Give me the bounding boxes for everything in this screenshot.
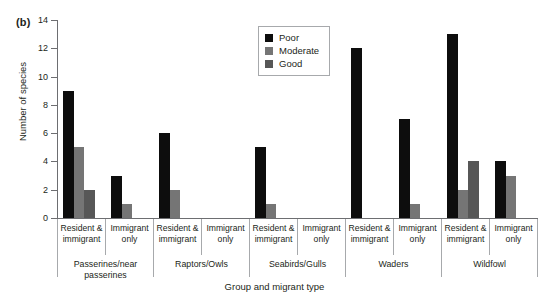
- bar-poor: [63, 91, 74, 218]
- x-category-line: Resident &immigrant: [252, 223, 294, 244]
- y-tick-label: 2: [28, 185, 48, 195]
- figure-panel-b: (b) Number of species Group and migrant …: [0, 0, 549, 301]
- x-axis-category-labels: Resident &immigrantImmigrantonlyResident…: [57, 219, 538, 255]
- legend-item-good[interactable]: Good: [265, 58, 319, 70]
- y-tick-label: 12: [28, 43, 48, 53]
- legend-label: Moderate: [279, 46, 319, 56]
- y-tick-mark: [51, 105, 57, 106]
- x-category-line: Immigrantonly: [494, 223, 532, 244]
- y-tick-mark: [51, 48, 57, 49]
- x-category-label: Resident &immigrant: [153, 219, 201, 255]
- legend-item-poor[interactable]: Poor: [265, 32, 319, 44]
- bar-moderate: [122, 204, 133, 218]
- y-tick-label: 0: [28, 213, 48, 223]
- bar-group: [202, 20, 250, 218]
- group-frame-end: [537, 255, 538, 277]
- bar-group: [58, 20, 106, 218]
- y-axis-title: Number of species: [17, 47, 28, 157]
- bar-poor: [351, 48, 362, 218]
- y-tick-mark: [51, 20, 57, 21]
- bar-moderate: [506, 176, 517, 218]
- bar-poor: [495, 161, 506, 218]
- bar-poor: [447, 34, 458, 218]
- bar-poor: [111, 176, 122, 218]
- bar-group: [442, 20, 490, 218]
- x-group-label: Seabirds/Gulls: [249, 255, 345, 277]
- legend: PoorModerateGood: [258, 26, 330, 76]
- x-group-label: Waders: [345, 255, 441, 277]
- x-category-label: Immigrantonly: [105, 219, 153, 255]
- bar-moderate: [458, 190, 469, 218]
- x-group-text: Seabirds/Gulls: [269, 259, 326, 270]
- legend-label: Good: [279, 59, 302, 69]
- legend-label: Poor: [279, 33, 299, 43]
- x-category-label: Resident &immigrant: [57, 219, 105, 255]
- x-category-label: Immigrantonly: [393, 219, 441, 255]
- legend-swatch-poor-icon: [265, 34, 273, 42]
- bar-group: [490, 20, 538, 218]
- bar-group: [106, 20, 154, 218]
- bar-moderate: [170, 190, 181, 218]
- y-tick-mark: [51, 133, 57, 134]
- x-category-label: Immigrantonly: [489, 219, 537, 255]
- bar-moderate: [410, 204, 421, 218]
- x-category-line: Immigrantonly: [398, 223, 436, 244]
- bar-group: [346, 20, 394, 218]
- x-group-label: Raptors/Owls: [153, 255, 249, 277]
- bar-poor: [255, 147, 266, 218]
- bar-good: [84, 190, 95, 218]
- x-group-label: Wildfowl: [441, 255, 537, 277]
- legend-swatch-good-icon: [265, 60, 273, 68]
- x-group-text: Passerines/nearpasserines: [74, 259, 138, 280]
- bar-moderate: [266, 204, 277, 218]
- y-tick-mark: [51, 190, 57, 191]
- bar-group: [154, 20, 202, 218]
- x-category-label: Immigrantonly: [201, 219, 249, 255]
- x-category-line: Resident &immigrant: [444, 223, 486, 244]
- y-tick-mark: [51, 161, 57, 162]
- x-category-line: Resident &immigrant: [348, 223, 390, 244]
- x-axis-group-labels: Passerines/nearpasserinesRaptors/OwlsSea…: [57, 255, 538, 285]
- bar-moderate: [74, 147, 85, 218]
- legend-item-moderate[interactable]: Moderate: [265, 45, 319, 57]
- x-group-text: Raptors/Owls: [175, 259, 228, 270]
- y-tick-label: 10: [28, 72, 48, 82]
- y-tick-mark: [51, 77, 57, 78]
- x-category-line: Resident &immigrant: [156, 223, 198, 244]
- y-tick-label: 8: [28, 100, 48, 110]
- bar-poor: [159, 133, 170, 218]
- x-category-label: Resident &immigrant: [441, 219, 489, 255]
- bar-good: [468, 161, 479, 218]
- category-frame-end: [537, 219, 538, 255]
- bar-poor: [399, 119, 410, 218]
- x-category-line: Immigrantonly: [110, 223, 148, 244]
- bar-group: [394, 20, 442, 218]
- x-category-label: Resident &immigrant: [249, 219, 297, 255]
- x-category-label: Resident &immigrant: [345, 219, 393, 255]
- x-category-line: Immigrantonly: [206, 223, 244, 244]
- x-group-text: Waders: [379, 259, 409, 270]
- legend-swatch-moderate-icon: [265, 47, 273, 55]
- x-category-line: Resident &immigrant: [60, 223, 102, 244]
- y-tick-label: 4: [28, 156, 48, 166]
- x-group-text: Wildfowl: [473, 259, 506, 270]
- x-group-label: Passerines/nearpasserines: [57, 255, 153, 277]
- x-category-label: Immigrantonly: [297, 219, 345, 255]
- x-category-line: Immigrantonly: [302, 223, 340, 244]
- y-tick-label: 6: [28, 128, 48, 138]
- y-tick-label: 14: [28, 15, 48, 25]
